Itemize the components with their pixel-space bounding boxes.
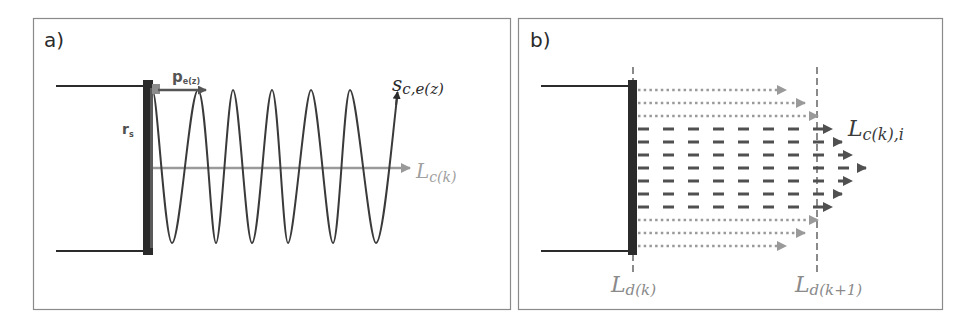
panel-a: a) pe(z) rs sc,e(z) Lc(k) [34,19,511,310]
rs-label: rs [122,121,134,139]
wave-sce-curve [153,90,397,243]
figure-canvas: a) pe(z) rs sc,e(z) Lc(k) b) [0,0,977,326]
lcki-label: Lc(k),i [847,116,904,144]
source-bar-b [628,80,637,255]
wave-sce-label: sc,e(z) [392,72,444,98]
dashed-rays [638,129,866,207]
ldk1-label: Ld(k+1) [794,272,862,299]
panel-b-label: b) [530,28,551,52]
ldk-label: Ld(k) [610,272,656,299]
source-bar-highlight [150,88,153,248]
pe-label: pe(z) [172,68,200,86]
panel-a-label: a) [44,28,64,52]
panel-b: b) Lc(k),i Ld(k) [519,19,943,310]
panel-a-border [34,19,511,310]
panel-b-border [519,19,943,310]
lck-axis-label: Lc(k) [415,159,457,185]
